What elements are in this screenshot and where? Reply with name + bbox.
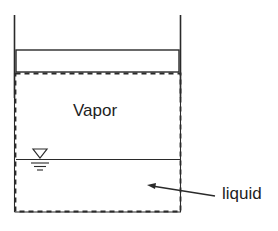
- piston-cylinder-diagram: Vapor liquid: [0, 0, 278, 231]
- liquid-label: liquid: [222, 184, 262, 204]
- piston: [16, 50, 179, 72]
- dashed-system-boundary: [16, 74, 181, 212]
- vapor-label: Vapor: [73, 101, 117, 121]
